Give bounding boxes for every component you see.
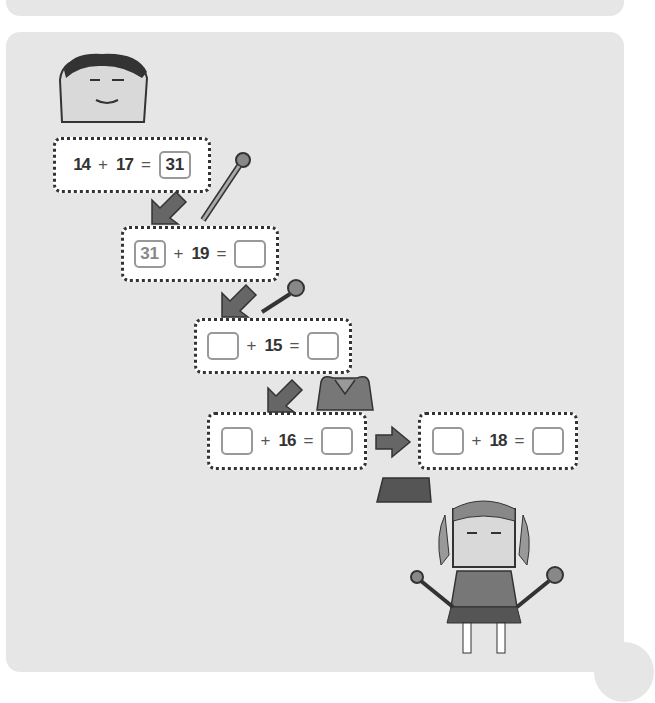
girl-character-icon — [405, 495, 565, 655]
equals-sign: = — [216, 244, 226, 264]
equation-2: 31 + 19 = — [121, 226, 279, 282]
jacket-icon — [313, 374, 377, 414]
arrow-down-left-icon — [218, 283, 258, 319]
equals-sign: = — [514, 431, 524, 451]
page-curl — [594, 642, 654, 702]
equation-5: + 18 = — [418, 412, 578, 470]
arrow-right-icon — [374, 425, 412, 459]
equals-sign: = — [289, 336, 299, 356]
answer-box[interactable] — [307, 332, 339, 360]
addend-b: 18 — [490, 431, 507, 451]
carried-value-box[interactable] — [221, 427, 253, 455]
equation-3: + 15 = — [194, 318, 352, 374]
arrow-down-left-icon — [264, 378, 304, 414]
equation-4: + 16 = — [207, 412, 367, 470]
answer-box[interactable]: 31 — [159, 151, 191, 179]
addend-b: 16 — [279, 431, 296, 451]
carried-value-box[interactable] — [207, 332, 239, 360]
carried-value-box[interactable] — [432, 427, 464, 455]
plus-sign: + — [261, 431, 271, 451]
equals-sign: = — [141, 155, 151, 175]
mace-icon — [258, 278, 306, 316]
boy-character-icon — [52, 50, 152, 124]
plus-sign: + — [174, 244, 184, 264]
equals-sign: = — [303, 431, 313, 451]
plus-sign: + — [472, 431, 482, 451]
addend-b: 19 — [192, 244, 209, 264]
equation-1: 14 + 17 = 31 — [53, 137, 211, 193]
plus-sign: + — [247, 336, 257, 356]
answer-box[interactable] — [234, 240, 266, 268]
addend-b: 17 — [116, 155, 133, 175]
answer-box[interactable] — [532, 427, 564, 455]
plus-sign: + — [98, 155, 108, 175]
top-panel — [6, 0, 624, 16]
addend-b: 15 — [265, 336, 282, 356]
arrow-down-left-icon — [148, 190, 188, 226]
carried-value-box[interactable]: 31 — [134, 240, 166, 268]
addend-a: 14 — [73, 155, 90, 175]
sword-icon — [195, 150, 255, 225]
answer-box[interactable] — [321, 427, 353, 455]
